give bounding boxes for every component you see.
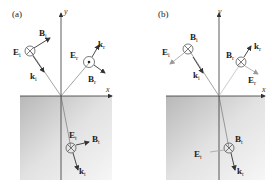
panel-b-label: (b) xyxy=(158,9,169,19)
panel-a: (a) y x Bi Ei ki kr Er Br Et Bt kt xyxy=(12,7,112,180)
reflected-ray xyxy=(219,63,241,96)
svg-text:ki: ki xyxy=(30,71,37,82)
svg-text:Bi: Bi xyxy=(190,32,198,43)
medium-region xyxy=(166,96,265,180)
svg-text:Er: Er xyxy=(248,75,256,86)
k-reflected-arrow xyxy=(244,46,251,57)
polarization-diagram: (a) y x Bi Ei ki kr Er Br Et Bt kt xyxy=(0,0,272,193)
svg-text:Er: Er xyxy=(70,50,78,61)
E-incident-arrow xyxy=(170,53,184,64)
x-axis-label: x xyxy=(261,85,266,94)
svg-text:ki: ki xyxy=(193,70,200,81)
svg-text:kr: kr xyxy=(98,39,105,50)
y-axis-label: y xyxy=(63,7,68,16)
E-reflected-arrow xyxy=(245,66,258,74)
svg-text:Br: Br xyxy=(88,74,96,85)
svg-text:Br: Br xyxy=(226,50,234,61)
svg-text:kr: kr xyxy=(254,41,261,52)
panel-b: (b) y x Bi Ei ki kr Br Er Et Bt kt xyxy=(158,7,266,180)
B-incident-arrow xyxy=(34,38,50,48)
medium-region xyxy=(20,96,112,180)
B-reflected-arrow xyxy=(94,65,105,73)
reflected-ray xyxy=(61,63,89,96)
svg-text:Ei: Ei xyxy=(162,47,170,58)
k-incident-arrow xyxy=(33,56,44,72)
svg-text:Bi: Bi xyxy=(39,28,47,39)
svg-text:Ei: Ei xyxy=(13,47,21,58)
panel-a-label: (a) xyxy=(12,9,22,19)
incident-ray xyxy=(31,52,61,96)
y-axis-label: y xyxy=(217,7,222,16)
x-axis-label: x xyxy=(105,85,110,94)
